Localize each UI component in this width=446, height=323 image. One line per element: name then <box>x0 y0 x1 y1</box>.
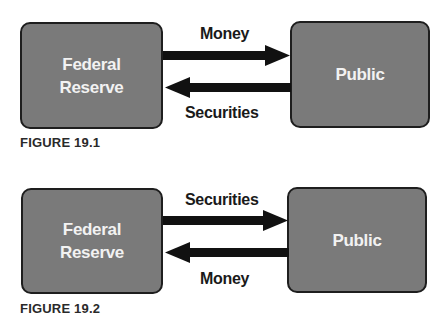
figure-caption: FIGURE 19.1 <box>20 135 100 150</box>
figure-caption: FIGURE 19.2 <box>20 301 100 316</box>
box-label: Public <box>335 63 384 86</box>
box-label-line1: Federal <box>62 55 120 74</box>
public-box: Public <box>287 187 427 293</box>
federal-reserve-box: FederalReserve <box>20 22 163 129</box>
arrow-left-icon <box>165 77 293 97</box>
bottom-arrow-label: Securities <box>185 104 259 122</box>
box-label: Public <box>332 229 381 252</box>
box-label-line2: Reserve <box>59 78 123 97</box>
federal-reserve-box: FederalReserve <box>21 188 163 294</box>
public-box: Public <box>290 21 430 128</box>
box-label-line1: Federal <box>63 220 121 239</box>
top-arrow-label: Securities <box>185 191 259 209</box>
box-label-line2: Reserve <box>60 243 124 262</box>
top-arrow-label: Money <box>200 25 249 43</box>
arrow-left-icon <box>165 242 291 262</box>
bottom-arrow-label: Money <box>200 270 249 288</box>
arrow-right-icon <box>163 210 289 230</box>
arrow-right-icon <box>163 45 291 65</box>
